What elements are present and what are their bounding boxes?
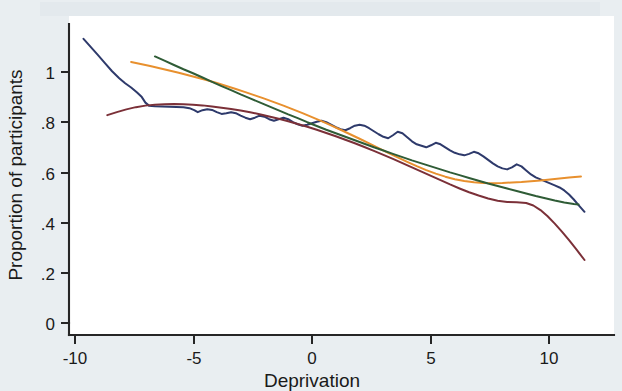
y-tick-label: .4 bbox=[41, 215, 55, 234]
scan-noise-band-top bbox=[40, 2, 600, 16]
y-tick-label: .2 bbox=[41, 265, 55, 284]
y-tick-label: .8 bbox=[41, 114, 55, 133]
x-tick-label: -5 bbox=[186, 349, 201, 368]
y-tick-label: 1 bbox=[46, 64, 55, 83]
x-tick-label: 10 bbox=[540, 349, 559, 368]
figure-container: 1 .8 .6 .4 .2 0 -10 -5 0 5 10 Deprivatio… bbox=[0, 0, 622, 391]
line-chart: 1 .8 .6 .4 .2 0 -10 -5 0 5 10 Deprivatio… bbox=[0, 0, 622, 391]
x-axis-title: Deprivation bbox=[264, 370, 360, 391]
x-tick-label: 5 bbox=[426, 349, 435, 368]
y-tick-label: .6 bbox=[41, 165, 55, 184]
y-axis-title: Proportion of participants bbox=[5, 69, 26, 280]
x-tick-label: 0 bbox=[307, 349, 316, 368]
x-tick-label: -10 bbox=[63, 349, 88, 368]
y-tick-label: 0 bbox=[46, 315, 55, 334]
